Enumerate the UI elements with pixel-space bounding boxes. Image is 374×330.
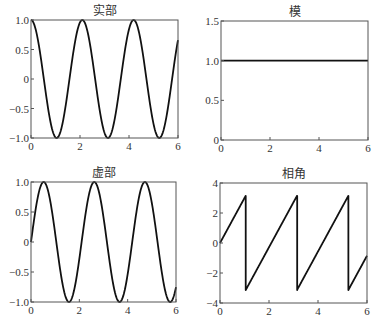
data-line: [31, 20, 178, 138]
x-tick-label: 2: [77, 140, 83, 152]
panel-title: 实部: [93, 3, 117, 18]
y-tick-label: −2: [206, 267, 218, 279]
y-tick-label: −4: [206, 297, 218, 309]
x-tick-label: 4: [315, 305, 321, 317]
x-tick-label: 2: [267, 142, 273, 154]
x-tick-label: 6: [365, 142, 371, 154]
data-line: [220, 196, 367, 290]
y-tick-label: 1.0: [15, 176, 29, 188]
x-tick-label: 6: [175, 140, 181, 152]
x-tick-label: 4: [316, 142, 322, 154]
y-tick-label: −0.5: [9, 103, 29, 115]
x-tick-label: 0: [28, 304, 34, 316]
panel-title: 相角: [282, 167, 306, 181]
y-tick-label: 1.0: [205, 55, 219, 67]
axes-frame: [31, 20, 178, 138]
x-tick-label: 0: [217, 305, 223, 317]
x-tick-label: 2: [266, 305, 272, 317]
y-tick-label: −1.0: [9, 296, 29, 308]
x-tick-label: 4: [125, 304, 131, 316]
axes-frame: [31, 182, 176, 302]
panel-imag: 虚部0246−1.0−0.500.51.0: [9, 165, 179, 316]
y-tick-label: 1.5: [205, 15, 219, 27]
chart-figure: 实部0246−1.0−0.500.51.0 模024600.51.01.5 虚部…: [0, 0, 374, 330]
y-tick-label: 0: [24, 236, 30, 248]
y-tick-label: −1.0: [9, 132, 29, 144]
y-tick-label: 0: [24, 73, 30, 85]
y-tick-label: −0.5: [9, 266, 29, 278]
panel-title: 模: [289, 5, 301, 19]
data-line: [31, 182, 176, 302]
x-tick-label: 6: [364, 305, 370, 317]
y-tick-label: 0: [214, 134, 220, 146]
panel-real: 实部0246−1.0−0.500.51.0: [9, 3, 181, 152]
panel-modulus: 模024600.51.01.5: [205, 5, 371, 154]
y-tick-label: 0: [213, 237, 219, 249]
axes-frame: [221, 21, 368, 140]
y-tick-label: 0.5: [205, 94, 219, 106]
x-tick-label: 0: [218, 142, 224, 154]
y-tick-label: 4: [213, 177, 219, 189]
panel-phase: 相角0246−4−2024: [206, 167, 370, 317]
panel-title: 虚部: [92, 165, 116, 180]
x-tick-label: 2: [77, 304, 83, 316]
y-tick-label: 0.5: [15, 206, 29, 218]
y-tick-label: 2: [213, 207, 219, 219]
x-tick-label: 4: [126, 140, 132, 152]
x-tick-label: 6: [173, 304, 179, 316]
x-tick-label: 0: [28, 140, 34, 152]
y-tick-label: 0.5: [15, 44, 29, 56]
y-tick-label: 1.0: [15, 14, 29, 26]
